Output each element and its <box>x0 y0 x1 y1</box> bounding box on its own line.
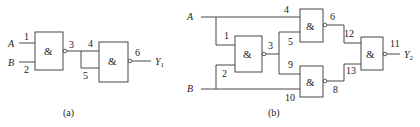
inversion-bubble <box>323 23 327 27</box>
pin-label-8: 8 <box>333 84 338 95</box>
pin-label-2: 2 <box>24 64 29 75</box>
caption-b: (b) <box>268 107 280 119</box>
pin-label-3: 3 <box>268 40 273 51</box>
pin-label-11: 11 <box>390 38 400 49</box>
pin-label-4: 4 <box>284 4 289 15</box>
pin-label-1: 1 <box>24 31 29 42</box>
inversion-bubble <box>63 49 67 53</box>
logic-circuit-figure: A B 1 2 & 3 4 5 & 6 Y1 (a) A B 4 <box>0 0 420 127</box>
wire-5 <box>81 51 99 68</box>
output-label-y2: Y2 <box>404 49 414 62</box>
pin-label-6: 6 <box>330 11 335 22</box>
diagram-b: A B 4 1 10 2 & 3 5 9 & 6 12 & <box>186 4 414 119</box>
input-label-b: B <box>8 57 14 68</box>
pin-label-5: 5 <box>83 70 88 81</box>
diagram-a: A B 1 2 & 3 4 5 & 6 Y1 (a) <box>7 31 165 119</box>
gate-symbol: & <box>44 45 53 57</box>
pin-label-12: 12 <box>344 28 354 39</box>
pin-label-5: 5 <box>288 36 293 47</box>
pin-label-3: 3 <box>69 39 74 50</box>
input-label-a: A <box>186 11 194 22</box>
pin-label-1: 1 <box>224 30 229 41</box>
gate-symbol: & <box>306 20 315 32</box>
gate-symbol: & <box>108 55 117 67</box>
pin-label-4: 4 <box>88 38 93 49</box>
output-label-y1: Y1 <box>155 56 165 69</box>
inversion-bubble <box>262 52 266 56</box>
pin-label-13: 13 <box>346 65 356 76</box>
caption-a: (a) <box>63 107 74 119</box>
inversion-bubble <box>128 59 132 63</box>
inversion-bubble <box>323 79 327 83</box>
pin-label-2: 2 <box>222 68 227 79</box>
pin-label-9: 9 <box>288 59 293 70</box>
input-label-a: A <box>7 38 15 49</box>
inversion-bubble <box>383 52 387 56</box>
pin-label-10: 10 <box>285 92 295 103</box>
gate-symbol: & <box>306 76 315 88</box>
gate-symbol: & <box>243 48 252 60</box>
input-label-b: B <box>187 83 193 94</box>
gate-symbol: & <box>366 48 375 60</box>
pin-label-6: 6 <box>135 47 140 58</box>
